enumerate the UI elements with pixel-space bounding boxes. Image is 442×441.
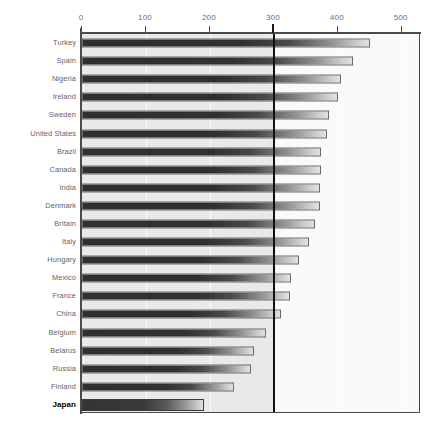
x-tick-400 [337,26,338,33]
bar-india [82,183,320,192]
category-label-russia: Russia [53,363,76,372]
bar-finland [82,382,234,391]
category-label-brazil: Brazil [57,146,76,155]
bar-italy [82,238,309,247]
x-tick-500 [401,26,402,33]
x-tick-100 [145,26,146,33]
gridline-500 [402,34,403,412]
category-label-france: France [52,291,76,300]
category-label-sweden: Sweden [49,110,76,119]
category-label-britain: Britain [54,219,76,228]
bar-united-states [82,129,327,138]
category-label-nigeria: Nigeria [52,74,76,83]
plot-area [81,33,420,413]
bar-japan [82,399,204,411]
x-tick-300 [272,24,274,33]
bar-spain [82,57,353,66]
bar-china [82,310,281,319]
x-tick-label-100: 100 [138,13,152,22]
bar-belgium [82,328,266,337]
category-label-italy: Italy [62,237,76,246]
category-label-india: India [59,182,76,191]
category-label-turkey: Turkey [53,38,76,47]
x-tick-label-400: 400 [330,13,344,22]
bar-chart: 0100200300400500 TurkeySpainNigeriaIrela… [0,0,442,441]
category-label-japan: Japan [52,399,76,408]
category-label-mexico: Mexico [52,273,76,282]
reference-line-300 [273,34,275,412]
x-tick-label-300: 300 [266,13,280,22]
gridline-400 [338,34,339,412]
category-label-denmark: Denmark [45,200,76,209]
x-tick-label-200: 200 [202,13,216,22]
category-label-china: China [56,309,76,318]
x-tick-200 [209,26,210,33]
category-label-belgium: Belgium [49,327,76,336]
x-tick-label-500: 500 [394,13,408,22]
category-label-finland: Finland [51,381,76,390]
category-label-spain: Spain [57,56,76,65]
bar-nigeria [82,75,341,84]
bar-turkey [82,39,370,48]
bar-russia [82,364,251,373]
category-label-hungary: Hungary [47,255,76,264]
bar-britain [82,220,315,229]
category-label-belarus: Belarus [50,345,76,354]
bar-belarus [82,346,254,355]
bar-hungary [82,256,299,265]
bar-brazil [82,147,321,156]
bar-france [82,292,290,301]
x-tick-label-0: 0 [79,13,84,22]
bar-ireland [82,93,338,102]
category-label-ireland: Ireland [53,92,76,101]
category-label-united-states: United States [30,128,76,137]
bar-denmark [82,201,320,210]
bar-sweden [82,111,329,120]
bar-canada [82,165,321,174]
x-tick-0 [81,26,82,33]
category-label-canada: Canada [50,164,77,173]
bar-mexico [82,274,291,283]
